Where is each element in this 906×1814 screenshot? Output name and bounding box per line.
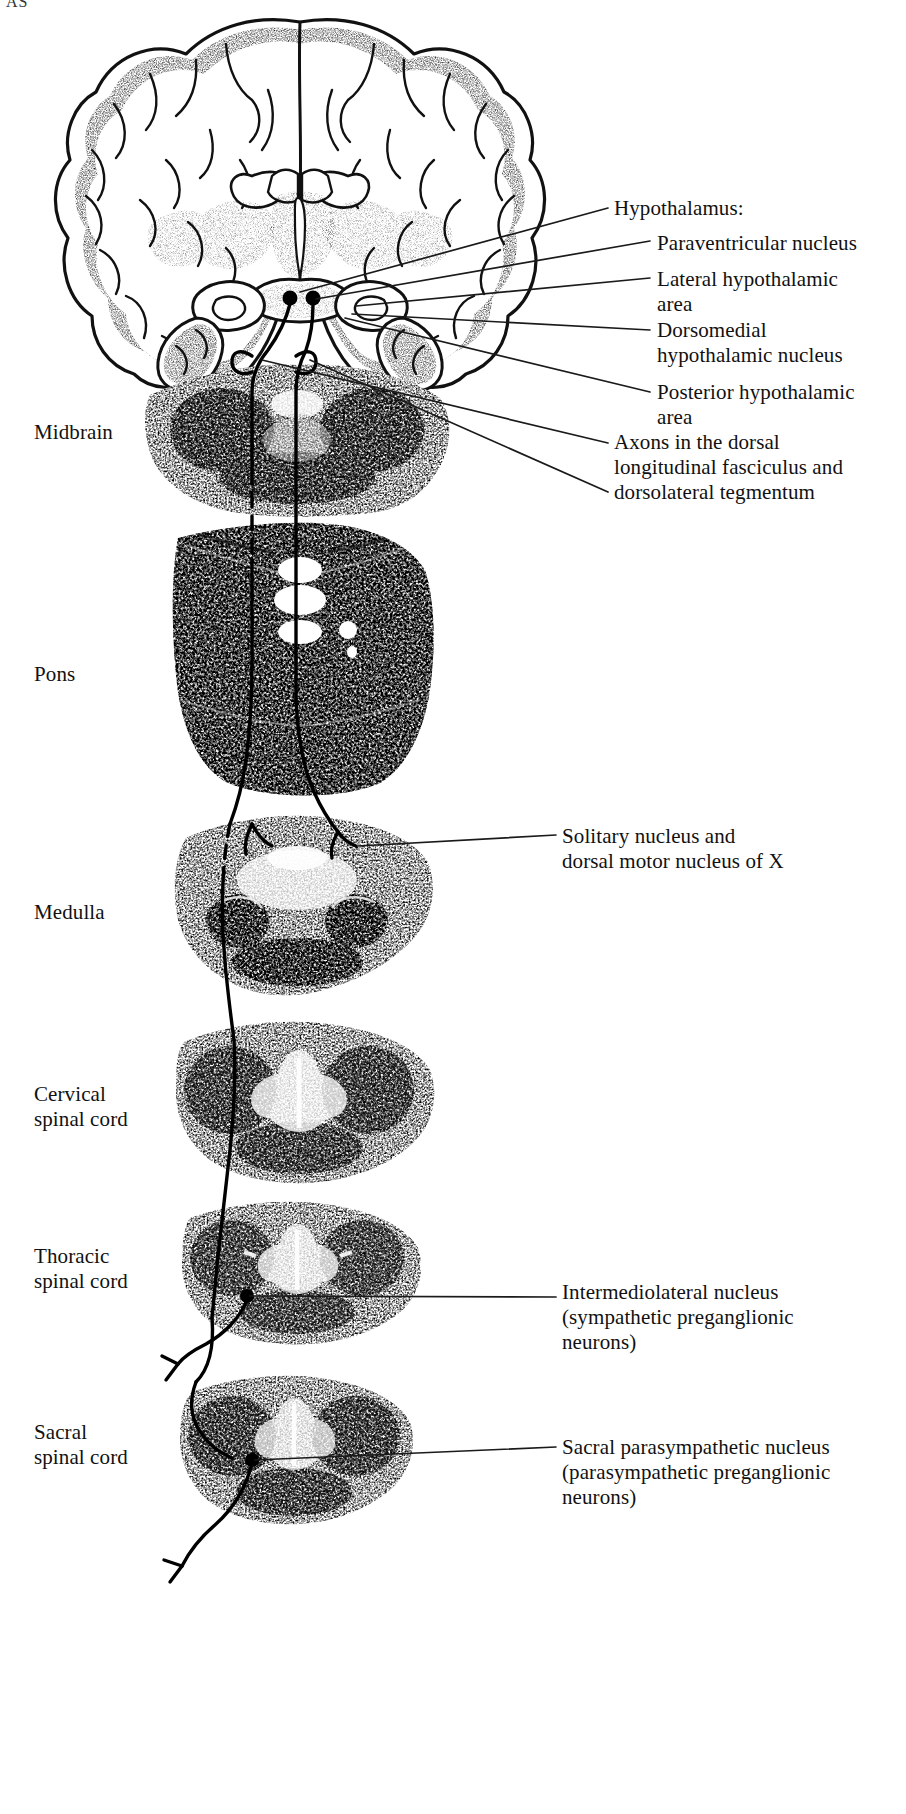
label-sacral-spinal-cord: Sacral spinal cord [34,1420,128,1470]
label-thoracic-spinal-cord: Thoracic spinal cord [34,1244,128,1294]
label-dorsomedial-hypothalamic-nucleus: Dorsomedial hypothalamic nucleus [657,318,843,368]
label-sacral-parasympathetic-nucleus: Sacral parasympathetic nucleus (parasymp… [562,1435,830,1510]
autonomic-pathway-figure: AS [0,0,906,1814]
label-paraventricular-nucleus: Paraventricular nucleus [657,231,857,256]
label-posterior-hypothalamic-area: Posterior hypothalamic area [657,380,855,430]
sacral-cord-section [172,1364,422,1532]
coronal-brain-section [55,20,544,391]
label-lateral-hypothalamic-area: Lateral hypothalamic area [657,267,838,317]
label-hypothalamus-heading: Hypothalamus: [614,196,744,221]
leader-iml [250,1296,556,1297]
label-medulla: Medulla [34,900,105,925]
label-pons: Pons [34,662,75,687]
medulla-section [170,805,440,1005]
label-intermediolateral-nucleus: Intermediolateral nucleus (sympathetic p… [562,1280,794,1355]
cervical-cord-section [170,1010,440,1190]
label-midbrain: Midbrain [34,420,113,445]
label-axons-dorsal-longitudinal-fasciculus: Axons in the dorsal longitudinal fascicu… [614,430,843,505]
label-cervical-spinal-cord: Cervical spinal cord [34,1082,128,1132]
label-solitary-nucleus: Solitary nucleus and dorsal motor nucleu… [562,824,784,874]
